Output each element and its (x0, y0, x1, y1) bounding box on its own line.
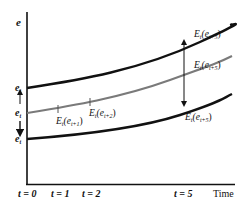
annotation-e-t5-upper: Et(et+5) (193, 29, 221, 40)
x-axis-label: Time (213, 188, 234, 199)
x-tick-t0: t = 0 (18, 188, 36, 199)
annotation-e-t5-mid: Et(et+5) (193, 60, 221, 71)
x-tick-t1: t = 1 (51, 188, 69, 199)
annotation-e-t1: Et(et+1) (55, 116, 83, 127)
annotation-e-t2: Et(et+2) (88, 108, 116, 119)
x-tick-t2: t = 2 (82, 188, 100, 199)
y-axis-label: e (16, 16, 21, 28)
x-tick-t5: t = 5 (174, 188, 192, 199)
expectations-diagram: e et et et Et(et+1) Et(et+2) Et(et+5) Et… (0, 0, 249, 209)
left-label-bottom: et (15, 133, 21, 145)
left-label-top: et (15, 82, 21, 94)
left-label-mid: et (15, 107, 21, 119)
annotation-e-t5-lower: Et(et+5) (184, 112, 212, 123)
